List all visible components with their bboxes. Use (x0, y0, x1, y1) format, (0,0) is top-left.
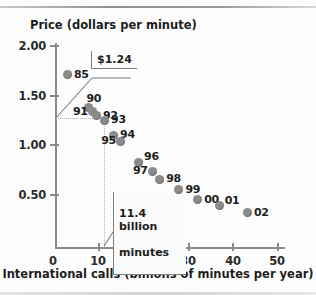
data-point-label-99: 99 (185, 183, 200, 196)
data-point-label-02: 02 (254, 206, 269, 219)
data-point-label-85: 85 (74, 68, 89, 81)
data-point-label-91: 91 (73, 105, 88, 118)
minutes-callout: 11.4 billion minutes (113, 192, 186, 275)
data-point-97 (148, 167, 157, 176)
data-point-label-93: 93 (111, 113, 126, 126)
scatter-chart-figure: Price (dollars per minute) International… (0, 0, 316, 295)
data-point-label-01: 01 (225, 194, 240, 207)
data-point-label-98: 98 (166, 172, 181, 185)
data-point-label-90: 90 (86, 92, 101, 105)
data-point-98 (155, 175, 164, 184)
minutes-callout-line1: 11.4 billion (119, 207, 181, 233)
data-point-label-97: 97 (133, 164, 148, 177)
data-point-95 (116, 137, 125, 146)
data-point-93 (100, 116, 109, 125)
minutes-callout-line2: minutes (119, 246, 181, 259)
data-point-label-95: 95 (101, 134, 116, 147)
price-callout: $1.24 (91, 51, 137, 69)
data-point-label-96: 96 (144, 150, 159, 163)
